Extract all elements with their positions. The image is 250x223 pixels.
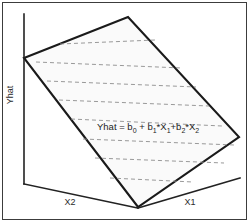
equation-plus-b2: +b (171, 121, 182, 132)
x2-axis-line (24, 184, 138, 208)
regression-plane-figure: Yhat X2 X1 Yhat = b0 + b1*X1+b2*X2 (0, 0, 250, 223)
x1-axis-label: X1 (184, 197, 195, 207)
equation-plus-b1: + b (137, 121, 153, 132)
regression-plane-polygon (24, 17, 239, 207)
equation-sub-x2: 2 (195, 127, 199, 134)
x2-axis-label: X2 (64, 197, 75, 207)
yhat-axis-label: Yhat (5, 85, 15, 104)
equation-lead: Yhat = b (97, 121, 133, 132)
